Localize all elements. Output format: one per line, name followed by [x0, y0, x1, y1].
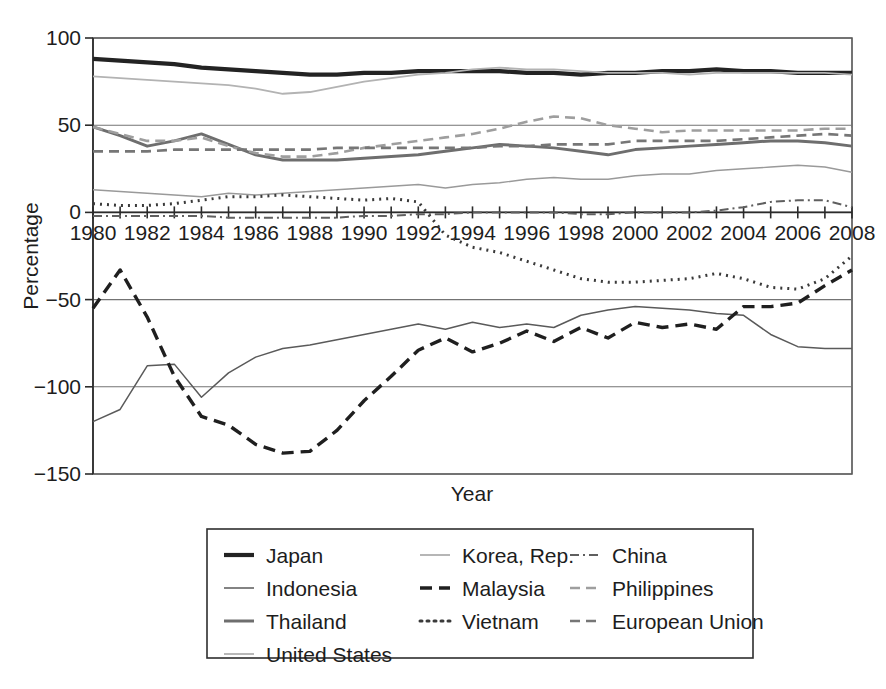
x-tick-label-1996: 1996: [503, 221, 550, 244]
y-tick-label: 100: [46, 26, 81, 49]
legend: JapanIndonesiaThailandUnited StatesKorea…: [207, 529, 764, 666]
legend-label-philippines: Philippines: [612, 577, 714, 600]
legend-label-united-states: United States: [266, 643, 392, 666]
series-line-malaysia: [93, 270, 852, 453]
x-axis: [93, 206, 852, 218]
x-tick-label-1992: 1992: [395, 221, 442, 244]
series-line-thailand: [93, 127, 852, 160]
series-line-united-states: [93, 165, 852, 196]
x-tick-label-1982: 1982: [124, 221, 171, 244]
x-tick-label-2008: 2008: [829, 221, 876, 244]
y-tick-label: 0: [69, 200, 81, 223]
x-tick-label-2000: 2000: [612, 221, 659, 244]
plot-frame: [93, 38, 852, 474]
x-tick-label-2004: 2004: [720, 221, 767, 244]
chart-figure: 100500−50−100−150 1980198219841986198819…: [0, 0, 886, 689]
y-tick-label: −100: [34, 375, 81, 398]
x-tick-label-1986: 1986: [232, 221, 279, 244]
legend-label-indonesia: Indonesia: [266, 577, 357, 600]
legend-label-vietnam: Vietnam: [462, 610, 539, 633]
y-tick-label: −50: [45, 288, 81, 311]
series-line-indonesia: [93, 307, 852, 422]
y-axis-title: Percentage: [19, 202, 42, 309]
x-axis-title: Year: [451, 482, 493, 505]
x-tick-label-1984: 1984: [178, 221, 225, 244]
x-tick-labels: 1980198219841986198819901992199419961998…: [70, 221, 876, 244]
x-tick-label-1990: 1990: [341, 221, 388, 244]
y-tick-label: 50: [58, 113, 81, 136]
legend-label-china: China: [612, 544, 667, 567]
legend-label-malaysia: Malaysia: [462, 577, 545, 600]
x-tick-label-1994: 1994: [449, 221, 496, 244]
x-tick-label-1998: 1998: [558, 221, 605, 244]
y-axis: [85, 38, 93, 474]
x-tick-label-1980: 1980: [70, 221, 117, 244]
x-tick-label-2002: 2002: [666, 221, 713, 244]
y-tick-label: −150: [34, 462, 81, 485]
legend-label-japan: Japan: [266, 544, 323, 567]
legend-label-thailand: Thailand: [266, 610, 347, 633]
x-tick-label-2006: 2006: [774, 221, 821, 244]
legend-label-european-union: European Union: [612, 610, 764, 633]
line-chart: 100500−50−100−150 1980198219841986198819…: [0, 0, 886, 689]
gridlines: [93, 38, 852, 474]
legend-label-korea-rep: Korea, Rep.: [462, 544, 574, 567]
data-series: [93, 59, 852, 453]
x-tick-label-1988: 1988: [286, 221, 333, 244]
